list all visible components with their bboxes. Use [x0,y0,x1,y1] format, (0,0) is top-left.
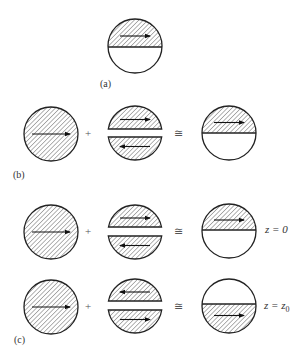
position-equation: z = z0 [263,299,289,314]
full-magnetized-disk [24,280,78,334]
panel-c-row-1: +≅z = 0 [24,204,288,259]
lower-half-segment [108,310,161,333]
lower-half-segment [108,236,161,259]
congruent-operator: ≅ [174,225,183,237]
panel-label-a: (a) [100,78,111,90]
split-disk-pair [108,205,161,259]
position-equation: z = 0 [264,223,288,235]
half-magnetized-disk [108,19,162,73]
plus-operator: + [85,127,91,139]
congruent-operator: ≅ [174,300,183,312]
full-magnetized-disk [24,205,78,259]
panel-label-b: (b) [13,169,25,181]
half-magnetized-disk [202,204,256,258]
plus-operator: + [85,300,91,312]
full-magnetized-disk [24,107,78,161]
diagram-figure: (a) +≅(b) +≅z = 0+≅z = z0(c) [0,0,306,359]
panel-b: +≅(b) [13,106,256,181]
plus-operator: + [85,225,91,237]
congruent-operator: ≅ [174,127,183,139]
half-magnetized-disk [202,279,256,333]
upper-half-segment [108,279,161,301]
lower-half-segment [108,137,161,160]
panel-a: (a) [100,19,162,90]
upper-half-segment [108,205,161,227]
split-disk-pair [108,279,161,333]
panel-c: +≅z = 0+≅z = z0(c) [14,204,289,346]
panel-c-row-2: +≅z = z0 [24,279,289,334]
upper-half-segment [108,106,161,129]
half-magnetized-disk [202,106,256,160]
split-disk-pair [108,106,161,160]
panel-label-c: (c) [14,334,25,346]
